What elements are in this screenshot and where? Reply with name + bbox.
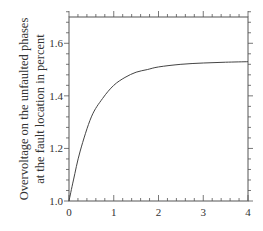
x-tick-label: 1 (111, 206, 117, 218)
x-tick-label: 4 (245, 206, 251, 218)
x-tick-label: 0 (66, 206, 72, 218)
y-tick-label: 1.0 (49, 195, 63, 207)
y-axis-label-line2: at the fault location in percent (33, 34, 47, 184)
axis-ticks (64, 11, 253, 201)
chart: 01234 1.01.21.41.6 Overvoltage on the un… (0, 0, 263, 231)
y-tick-label: 1.6 (49, 37, 63, 49)
y-axis-label-line1: Overvoltage on the unfaulted phases (17, 18, 31, 201)
y-tick-label: 1.2 (49, 142, 63, 154)
y-tick-label: 1.4 (49, 90, 63, 102)
y-axis-label: Overvoltage on the unfaulted phases at t… (17, 18, 47, 201)
y-tick-labels: 1.01.21.41.6 (49, 37, 63, 207)
x-tick-labels: 01234 (66, 206, 251, 218)
data-line (69, 62, 248, 201)
x-tick-label: 3 (201, 206, 207, 218)
x-tick-label: 2 (156, 206, 162, 218)
